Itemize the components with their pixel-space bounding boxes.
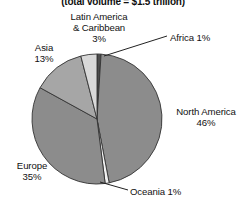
slice-label-europe: Europe 35% [6, 160, 58, 182]
latin-america-percent: 3% [56, 33, 142, 44]
europe-percent: 35% [6, 171, 58, 182]
slice-label-asia: Asia 13% [22, 42, 66, 64]
pie-slice-north-america [97, 54, 162, 183]
north-america-percent: 46% [168, 117, 244, 128]
north-america-name: North America [176, 106, 235, 117]
africa-label-text: Africa 1% [170, 32, 210, 43]
asia-percent: 13% [22, 53, 66, 64]
latin-america-line1: Latin America [71, 11, 128, 22]
slice-label-north-america: North America 46% [168, 106, 244, 128]
latin-america-line2: & Caribbean [73, 22, 125, 33]
pie-chart-figure: (total volume = $1.5 trillion) Latin Ame… [0, 0, 246, 213]
slice-label-oceania: Oceania 1% [130, 186, 181, 197]
slice-label-latin-america: Latin America & Caribbean 3% [56, 11, 142, 45]
oceania-leader-line [100, 182, 128, 190]
europe-name: Europe [17, 160, 47, 171]
slice-label-africa: Africa 1% [170, 32, 210, 43]
asia-name: Asia [35, 42, 53, 53]
oceania-label-text: Oceania 1% [130, 186, 181, 197]
